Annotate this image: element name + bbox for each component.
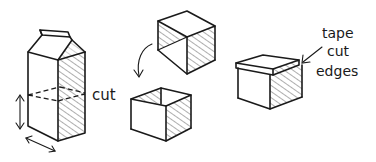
carton-top-half — [158, 11, 215, 74]
tape-arrow-icon — [302, 47, 322, 63]
height-arrow-icon — [16, 95, 24, 129]
carton-cap — [40, 30, 70, 37]
width-arrow-icon — [26, 136, 55, 152]
tape-label-line3: edges — [316, 63, 358, 79]
carton-bottom-half — [131, 88, 191, 141]
carton-right-face-hatch — [58, 52, 85, 141]
cut-label: cut — [92, 86, 116, 104]
tape-annotation: tape cut edges — [302, 25, 358, 79]
flip-arrow-icon — [134, 44, 152, 77]
milk-carton: cut — [16, 30, 116, 152]
finished-box — [236, 55, 302, 109]
cut-line-back — [28, 87, 60, 95]
tape-label-line2: cut — [327, 43, 350, 59]
carton-box-diagram: cut — [0, 0, 376, 162]
tape-label-line1: tape — [322, 25, 354, 41]
cut-line-front — [28, 95, 58, 101]
